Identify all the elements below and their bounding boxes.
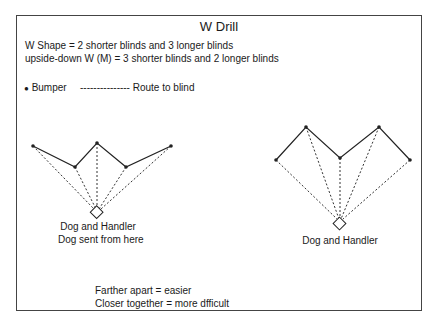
left-handler-label: Dog and Handler — [58, 221, 138, 232]
left-sent-label: Dog sent from here — [58, 234, 138, 245]
right-handler-label: Dog and Handler — [300, 235, 380, 246]
note-easier: Farther apart = easier — [95, 285, 191, 296]
note-difficult: Closer together = more dfficult — [95, 298, 229, 309]
m-shape-diagram — [274, 125, 412, 230]
drill-diagrams — [0, 0, 438, 329]
w-shape-diagram — [31, 141, 173, 218]
